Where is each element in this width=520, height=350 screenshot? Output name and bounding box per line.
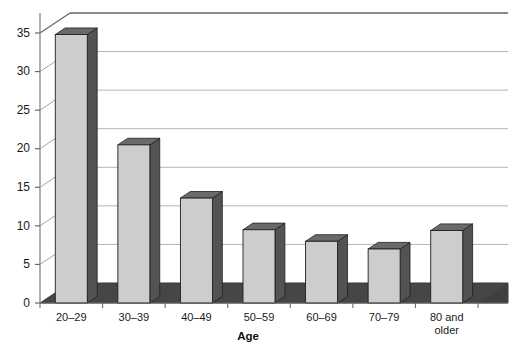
- bar-side-face: [212, 191, 222, 303]
- bar-front-face: [243, 230, 275, 303]
- bar-side-face: [400, 242, 410, 303]
- bar-side-face: [338, 235, 348, 303]
- y-axis-tick-label: 25: [17, 103, 31, 117]
- x-axis-tick-label: 30–39: [119, 311, 150, 323]
- x-axis-tick-label: 20–29: [56, 311, 87, 323]
- bar-front-face: [306, 241, 338, 303]
- bar-side-face: [87, 28, 97, 303]
- x-axis-tick-label-line2: older: [434, 324, 459, 336]
- bar-chart-figure: 05101520253035 20–2930–3940–4950–5960–69…: [0, 0, 520, 350]
- y-axis-tick-label: 15: [17, 180, 31, 194]
- bar-front-face: [431, 230, 463, 303]
- bar: [180, 191, 222, 303]
- x-axis-tick-label: 70–79: [369, 311, 400, 323]
- y-axis-tick-label: 20: [17, 141, 31, 155]
- y-axis-tick-label: 30: [17, 64, 31, 78]
- y-axis-tick-label: 0: [23, 296, 30, 310]
- bar-side-face: [275, 223, 285, 303]
- x-axis-tick-label: 60–69: [306, 311, 337, 323]
- y-axis-tick-label: 10: [17, 219, 31, 233]
- bar: [431, 224, 473, 303]
- bar-side-face: [463, 224, 473, 303]
- y-axis-tick-label: 5: [23, 257, 30, 271]
- bar: [243, 223, 285, 303]
- x-axis-tick-label: 80 and: [430, 311, 464, 323]
- bar: [55, 28, 97, 303]
- bar-front-face: [180, 198, 212, 303]
- bar-side-face: [150, 138, 160, 303]
- bar-front-face: [55, 35, 87, 303]
- y-axis-tick-label: 35: [17, 26, 31, 40]
- x-axis-title: Age: [237, 330, 259, 342]
- chart-canvas: 05101520253035 20–2930–3940–4950–5960–69…: [0, 0, 520, 350]
- x-axis-tick-label: 40–49: [181, 311, 212, 323]
- bar: [306, 235, 348, 303]
- bar-front-face: [118, 145, 150, 303]
- bar: [368, 242, 410, 303]
- x-axis-tick-label: 50–59: [244, 311, 275, 323]
- bar: [118, 138, 160, 303]
- bar-front-face: [368, 249, 400, 303]
